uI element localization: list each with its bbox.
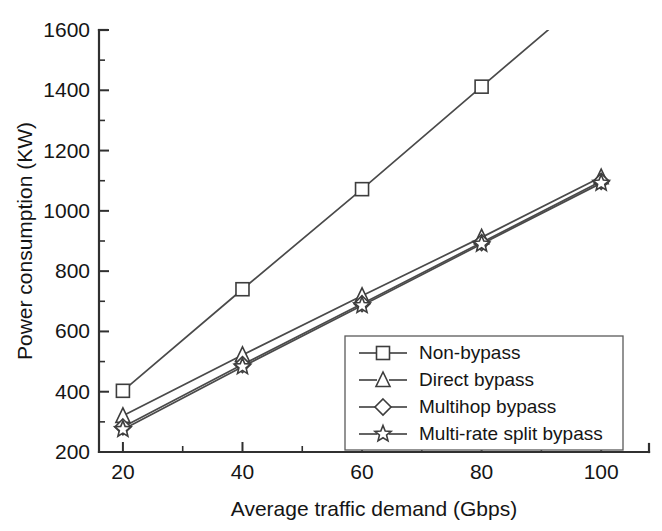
x-tick-label: 100 bbox=[584, 460, 619, 483]
y-tick-label: 1000 bbox=[43, 199, 90, 222]
x-tick-label: 20 bbox=[111, 460, 134, 483]
x-tick-label: 80 bbox=[470, 460, 493, 483]
data-point-multi-rate-split-bypass bbox=[593, 175, 609, 190]
y-tick-label: 1600 bbox=[43, 18, 90, 41]
y-tick-label: 200 bbox=[55, 440, 90, 463]
legend-label: Non-bypass bbox=[419, 342, 520, 363]
x-tick-label: 40 bbox=[231, 460, 254, 483]
y-tick-label: 800 bbox=[55, 259, 90, 282]
chart-canvas: 2004006008001000120014001600 20406080100… bbox=[0, 0, 662, 531]
y-axis-ticks bbox=[99, 30, 109, 452]
data-point-multi-rate-split-bypass bbox=[474, 236, 490, 251]
legend-marker-square-icon bbox=[377, 347, 390, 360]
y-tick-label: 1400 bbox=[43, 78, 90, 101]
x-axis-title: Average traffic demand (Gbps) bbox=[231, 497, 517, 520]
y-tick-label: 1200 bbox=[43, 139, 90, 162]
data-point-non-bypass bbox=[116, 384, 129, 397]
legend-label: Direct bypass bbox=[419, 369, 534, 390]
data-point-non-bypass bbox=[475, 80, 488, 93]
y-tick-label: 400 bbox=[55, 380, 90, 403]
data-point-non-bypass bbox=[356, 183, 369, 196]
chart-legend[interactable]: Non-bypassDirect bypassMultihop bypassMu… bbox=[345, 336, 623, 450]
x-tick-label: 60 bbox=[350, 460, 373, 483]
chart-figure: 2004006008001000120014001600 20406080100… bbox=[0, 0, 662, 531]
data-point-non-bypass bbox=[236, 283, 249, 296]
x-axis-tick-labels: 20406080100 bbox=[111, 460, 618, 483]
y-axis-title: Power consumption (KW) bbox=[13, 122, 36, 360]
y-tick-label: 600 bbox=[55, 319, 90, 342]
legend-label: Multi-rate split bypass bbox=[419, 423, 603, 444]
legend-label: Multihop bypass bbox=[419, 396, 556, 417]
y-axis-tick-labels: 2004006008001000120014001600 bbox=[43, 18, 90, 463]
